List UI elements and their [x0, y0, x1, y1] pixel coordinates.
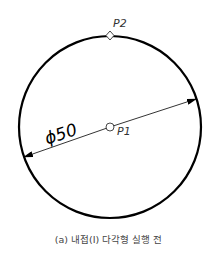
diameter-dimension-line	[110, 99, 196, 127]
figure-caption: (a) 내접(I) 다각형 실행 전	[0, 232, 217, 246]
circle-diagram: P2 P1 ϕ50	[0, 0, 217, 257]
p1-label: P1	[117, 125, 131, 138]
quadrant-point-marker	[106, 31, 114, 40]
p2-label: P2	[113, 17, 127, 30]
diameter-label: ϕ50	[42, 119, 79, 148]
center-point-marker	[106, 123, 114, 131]
